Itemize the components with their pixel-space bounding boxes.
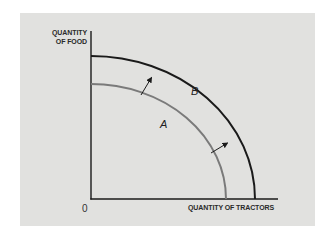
origin-label: 0 (82, 203, 88, 214)
curve-b-label: B (191, 85, 198, 97)
y-axis-label: QUANTITY OF FOOD (52, 29, 87, 46)
curve-a (91, 84, 226, 199)
y-axis-label-line2: OF FOOD (52, 38, 87, 47)
y-axis-label-line1: QUANTITY (52, 29, 87, 38)
x-axis-label: QUANTITY OF TRACTORS (188, 204, 274, 211)
curve-b (91, 56, 255, 199)
curve-a-label: A (160, 118, 167, 130)
shift-arrow-lower (211, 143, 228, 153)
shift-arrow-upper (141, 78, 152, 96)
